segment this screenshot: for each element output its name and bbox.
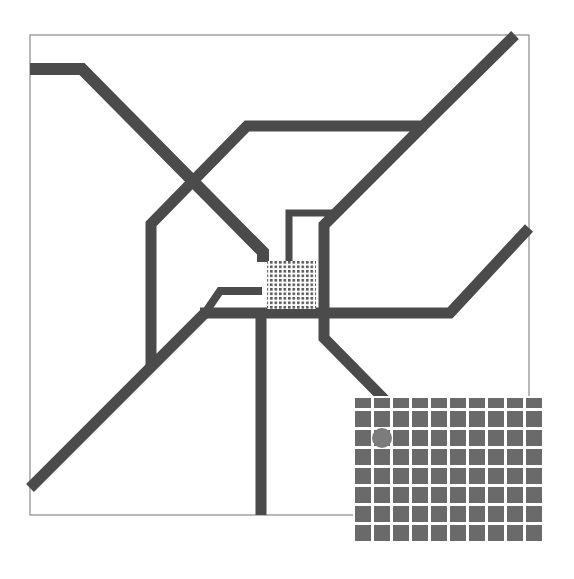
pad-cell: [450, 525, 466, 541]
pad-cell: [355, 487, 371, 503]
pad-cell: [393, 525, 409, 541]
pad-cell: [412, 430, 428, 446]
pad-cell: [450, 449, 466, 465]
pad-cell: [393, 430, 409, 446]
pad-cell: [412, 506, 428, 522]
pad-cell: [469, 430, 485, 446]
pad-cell: [355, 506, 371, 522]
pad-cell: [507, 411, 523, 427]
hatched-pad: [267, 261, 316, 309]
pad-cell: [469, 468, 485, 484]
pad-cell: [374, 449, 390, 465]
pad-cell: [488, 506, 504, 522]
pad-cell: [412, 449, 428, 465]
pad-cell: [412, 398, 428, 408]
pad-cell: [469, 506, 485, 522]
pad-cell: [412, 468, 428, 484]
pad-cell: [355, 430, 371, 446]
pad-cell: [431, 411, 447, 427]
pad-cell: [488, 525, 504, 541]
pad-cell: [393, 449, 409, 465]
pad-cell: [374, 398, 390, 408]
pad-cell: [526, 398, 542, 408]
pad-cell: [526, 525, 542, 541]
pad-cell: [355, 449, 371, 465]
pad-cell: [355, 525, 371, 541]
pad-cell: [507, 487, 523, 503]
pad-cell: [431, 468, 447, 484]
pad-cell: [431, 506, 447, 522]
pad-cell: [355, 398, 371, 408]
pad-cell: [393, 506, 409, 522]
pad-cell: [507, 398, 523, 408]
pad-cell: [469, 398, 485, 408]
pad-cell: [450, 398, 466, 408]
pad-cell: [393, 411, 409, 427]
pad-cell: [488, 398, 504, 408]
pad-cell: [450, 468, 466, 484]
pad-cell: [431, 525, 447, 541]
pad-cell: [488, 449, 504, 465]
pad-cell: [355, 411, 371, 427]
pad-cell: [450, 487, 466, 503]
pad-cell: [526, 449, 542, 465]
pad-cell: [469, 525, 485, 541]
pad-cell: [526, 468, 542, 484]
pad-cell: [488, 430, 504, 446]
pad-cell: [507, 430, 523, 446]
pad-cell: [469, 449, 485, 465]
pad-cell: [488, 468, 504, 484]
pad-cell: [526, 506, 542, 522]
pad-cell: [374, 411, 390, 427]
pad-cell: [431, 487, 447, 503]
pad-cell: [488, 411, 504, 427]
pad-cell: [431, 430, 447, 446]
pad-cell: [507, 525, 523, 541]
pad-cell: [450, 430, 466, 446]
pad-cell: [507, 449, 523, 465]
pad-cell: [374, 525, 390, 541]
pad-cell: [393, 398, 409, 408]
pad-cell: [488, 487, 504, 503]
pad-cell: [526, 430, 542, 446]
pad-cell: [469, 411, 485, 427]
pad-cell: [431, 398, 447, 408]
pad-cell: [412, 525, 428, 541]
pad-cell: [431, 449, 447, 465]
pad-cell: [526, 411, 542, 427]
pad-cell: [507, 468, 523, 484]
pad-cell: [450, 411, 466, 427]
pad-cell: [374, 468, 390, 484]
pad-grid: [353, 396, 544, 543]
pad-cell: [450, 506, 466, 522]
via-marker: [372, 428, 392, 448]
pad-cell: [374, 487, 390, 503]
pad-cell: [393, 468, 409, 484]
routing-diagram: [0, 0, 574, 579]
pad-cell: [526, 487, 542, 503]
track-right-inner: [324, 126, 423, 400]
pad-cell: [412, 411, 428, 427]
track-lower-left-diagonal: [30, 313, 205, 488]
pad-cell: [507, 506, 523, 522]
pad-cell: [469, 487, 485, 503]
pad-cell: [393, 487, 409, 503]
pad-cell: [412, 487, 428, 503]
pad-cell: [374, 506, 390, 522]
pad-cell: [355, 468, 371, 484]
